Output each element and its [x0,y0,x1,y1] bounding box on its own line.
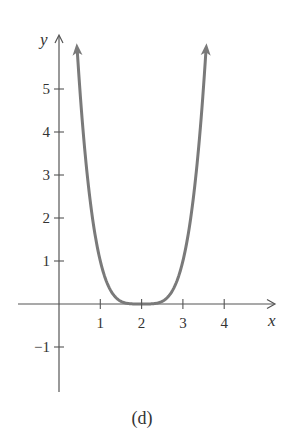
y-axis-label: y [38,30,48,49]
y-tick-label: 4 [43,124,51,140]
x-tick-label: 2 [138,315,146,331]
quartic-chart: y x (d) 1234 −112345 [0,0,299,439]
y-tick-label: 5 [43,81,51,97]
x-tick-label: 3 [179,315,187,331]
y-tick-label: 1 [43,253,51,269]
y-tick-label: −1 [34,339,50,355]
x-tick-label: 1 [97,315,105,331]
figure-caption: (d) [132,408,153,429]
y-tick-label: 2 [43,210,51,226]
curve-line [77,49,206,304]
x-axis-label: x [267,311,276,330]
x-tick-label: 4 [220,315,228,331]
y-tick-label: 3 [43,167,51,183]
function-curve [73,43,211,304]
